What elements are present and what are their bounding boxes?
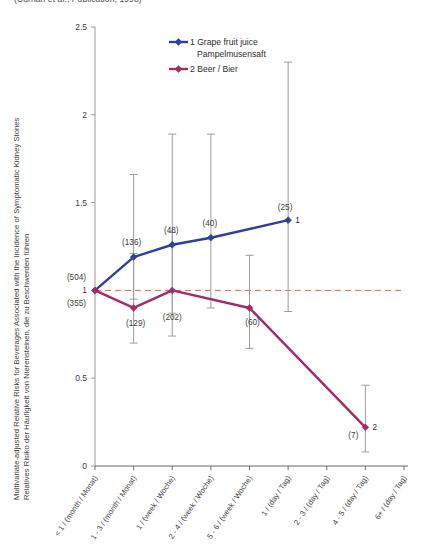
series-line-2 — [95, 290, 365, 427]
series-marker-1 — [169, 241, 176, 248]
x-tick-label: < 1 / (month / Monat) — [53, 474, 100, 538]
y-tick-label: 1.5 — [75, 198, 87, 208]
x-tick-label: 5 - 6 / (week / Woche) — [205, 474, 254, 541]
point-annotations-layer: 12(504)(136)(48)(40)(25)(355)(129)(202)(… — [67, 203, 378, 440]
x-tick-label: 1 / (week / Woche) — [134, 474, 177, 532]
x-tick-label: 6+ / (day / Tag) — [373, 474, 409, 521]
y-tick-label: 0.5 — [75, 373, 87, 383]
legend-swatch-marker-2 — [175, 66, 182, 73]
y-tick-label: 0 — [82, 461, 87, 471]
point-count-label: (504) — [67, 273, 86, 282]
point-count-label: (202) — [163, 313, 182, 322]
y-tick-label: 2.5 — [75, 22, 87, 32]
chart-svg: 00.511.522.5 12(504)(136)(48)(40)(25)(35… — [0, 0, 421, 557]
point-count-label: (355) — [67, 299, 86, 308]
legend-label-2: 2 Beer / Bier — [190, 64, 238, 74]
series-id-label-2: 2 — [372, 423, 377, 432]
x-tick-label: 1 / (day / Tag) — [259, 474, 293, 518]
point-count-label: (136) — [122, 238, 141, 247]
point-count-label: (60) — [245, 318, 260, 327]
y-tick-label: 1 — [82, 285, 87, 295]
legend-label-1: 1 Grape fruit juice — [190, 37, 258, 47]
series-marker-1 — [207, 234, 214, 241]
y-tick-label: 2 — [82, 110, 87, 120]
point-count-label: (129) — [126, 319, 145, 328]
x-tick-label: 4 - 5 / (day / Tag) — [331, 474, 371, 527]
series-id-label-1: 1 — [295, 216, 300, 225]
chart-page: (Curhan et al., Publication, 1998) Multi… — [0, 0, 421, 557]
point-count-label: (48) — [164, 226, 179, 235]
point-count-label: (25) — [278, 203, 293, 212]
x-tick-label: 2 - 3 / (day / Tag) — [292, 474, 332, 527]
point-count-label: (40) — [203, 219, 218, 228]
series-marker-1 — [285, 217, 292, 224]
x-tick-labels-layer: < 1 / (month / Monat)1 - 3 / (month / Mo… — [53, 474, 409, 542]
series-line-1 — [95, 220, 288, 290]
legend-layer: 1 Grape fruit juicePampelmusensaft2 Beer… — [169, 37, 266, 74]
point-count-label: (7) — [348, 431, 358, 440]
legend-swatch-marker-1 — [175, 39, 182, 46]
legend-sublabel-1: Pampelmusensaft — [197, 49, 266, 59]
